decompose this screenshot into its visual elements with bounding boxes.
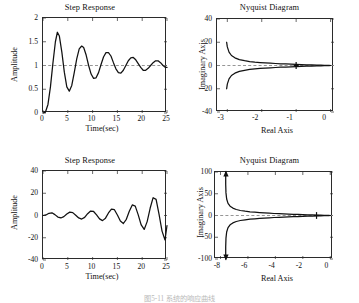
tick-x-bottom-left-0: 0 bbox=[40, 262, 44, 271]
tick-y-bottom-right-4: -100 bbox=[186, 254, 212, 263]
tick-x-bottom-right-2: -4 bbox=[268, 261, 274, 270]
panel-top-left: Step Response Amplitude Time(sec) 2 1.5 … bbox=[0, 0, 180, 150]
plot-svg-top-left bbox=[43, 18, 167, 113]
tick-x-top-left-3: 15 bbox=[113, 114, 121, 123]
panel-top-right: Nyquist Diagram Imaginary Axis Real Axis… bbox=[180, 0, 359, 150]
plot-svg-bottom-left bbox=[43, 171, 167, 260]
tick-x-bottom-left-2: 10 bbox=[88, 262, 96, 271]
tick-x-bottom-left-4: 20 bbox=[137, 262, 145, 271]
plot-area-bottom-right bbox=[214, 171, 332, 258]
panel-title-bottom-left: Step Response bbox=[0, 156, 180, 165]
tick-y-top-right-3: -20 bbox=[192, 83, 212, 92]
tick-x-top-left-2: 10 bbox=[88, 114, 96, 123]
tick-y-bottom-left-1: 20 bbox=[14, 188, 38, 197]
tick-y-top-left-2: 1 bbox=[18, 60, 38, 69]
plot-svg-bottom-right bbox=[215, 172, 333, 259]
tick-y-bottom-left-3: -20 bbox=[14, 232, 38, 241]
panel-title-top-left: Step Response bbox=[0, 3, 180, 12]
plot-svg-top-right bbox=[217, 19, 334, 112]
tick-x-top-right-3: 0 bbox=[322, 113, 326, 122]
tick-x-bottom-left-1: 5 bbox=[65, 262, 69, 271]
tick-x-bottom-left-3: 15 bbox=[113, 262, 121, 271]
tick-y-bottom-left-2: 0 bbox=[14, 210, 38, 219]
x-axis-label-top-left: Time(sec) bbox=[38, 124, 166, 133]
x-axis-label-top-right: Real Axis bbox=[212, 126, 342, 135]
tick-x-top-left-0: 0 bbox=[40, 114, 44, 123]
tick-x-top-right-1: -2 bbox=[252, 113, 258, 122]
panel-title-bottom-right: Nyquist Diagram bbox=[180, 156, 359, 165]
tick-x-top-left-5: 25 bbox=[162, 114, 170, 123]
tick-y-top-left-4: 0 bbox=[18, 108, 38, 117]
tick-y-bottom-right-3: -50 bbox=[186, 232, 212, 241]
tick-x-top-left-4: 20 bbox=[137, 114, 145, 123]
panel-bottom-right: Nyquist Diagram Imaginary Axis Real Axis… bbox=[180, 150, 359, 295]
tick-y-bottom-right-1: 50 bbox=[186, 188, 212, 197]
tick-y-top-right-4: -40 bbox=[192, 107, 212, 116]
tick-y-bottom-right-0: 100 bbox=[186, 167, 212, 176]
tick-x-top-right-2: -1 bbox=[286, 113, 292, 122]
x-axis-label-bottom-right: Real Axis bbox=[212, 274, 342, 283]
tick-x-bottom-right-4: 0 bbox=[324, 261, 328, 270]
figure-caption: 图5-11 系统的响应曲线 bbox=[0, 293, 359, 303]
plot-area-top-left bbox=[42, 17, 166, 112]
tick-x-bottom-right-0: -8 bbox=[214, 261, 220, 270]
tick-y-bottom-left-0: 40 bbox=[14, 166, 38, 175]
tick-y-top-right-2: 0 bbox=[192, 60, 212, 69]
tick-x-bottom-right-3: -2 bbox=[296, 261, 302, 270]
tick-x-top-left-1: 5 bbox=[65, 114, 69, 123]
panel-bottom-left: Step Response Amplitude Time(sec) 40 20 … bbox=[0, 150, 180, 295]
tick-y-top-left-0: 2 bbox=[18, 13, 38, 22]
plot-area-bottom-left bbox=[42, 170, 166, 259]
tick-y-top-left-3: 0.5 bbox=[18, 84, 38, 93]
tick-y-bottom-right-2: 0 bbox=[186, 210, 212, 219]
tick-y-bottom-left-4: -40 bbox=[14, 255, 38, 264]
plot-area-top-right bbox=[216, 18, 333, 111]
tick-x-bottom-right-1: -6 bbox=[241, 261, 247, 270]
panel-title-top-right: Nyquist Diagram bbox=[180, 3, 359, 12]
tick-x-bottom-left-5: 25 bbox=[162, 262, 170, 271]
tick-y-top-right-1: 20 bbox=[192, 37, 212, 46]
tick-y-top-right-0: 40 bbox=[192, 14, 212, 23]
tick-y-top-left-1: 1.5 bbox=[18, 36, 38, 45]
x-axis-label-bottom-left: Time(sec) bbox=[38, 272, 166, 281]
tick-x-top-right-0: -3 bbox=[217, 113, 223, 122]
